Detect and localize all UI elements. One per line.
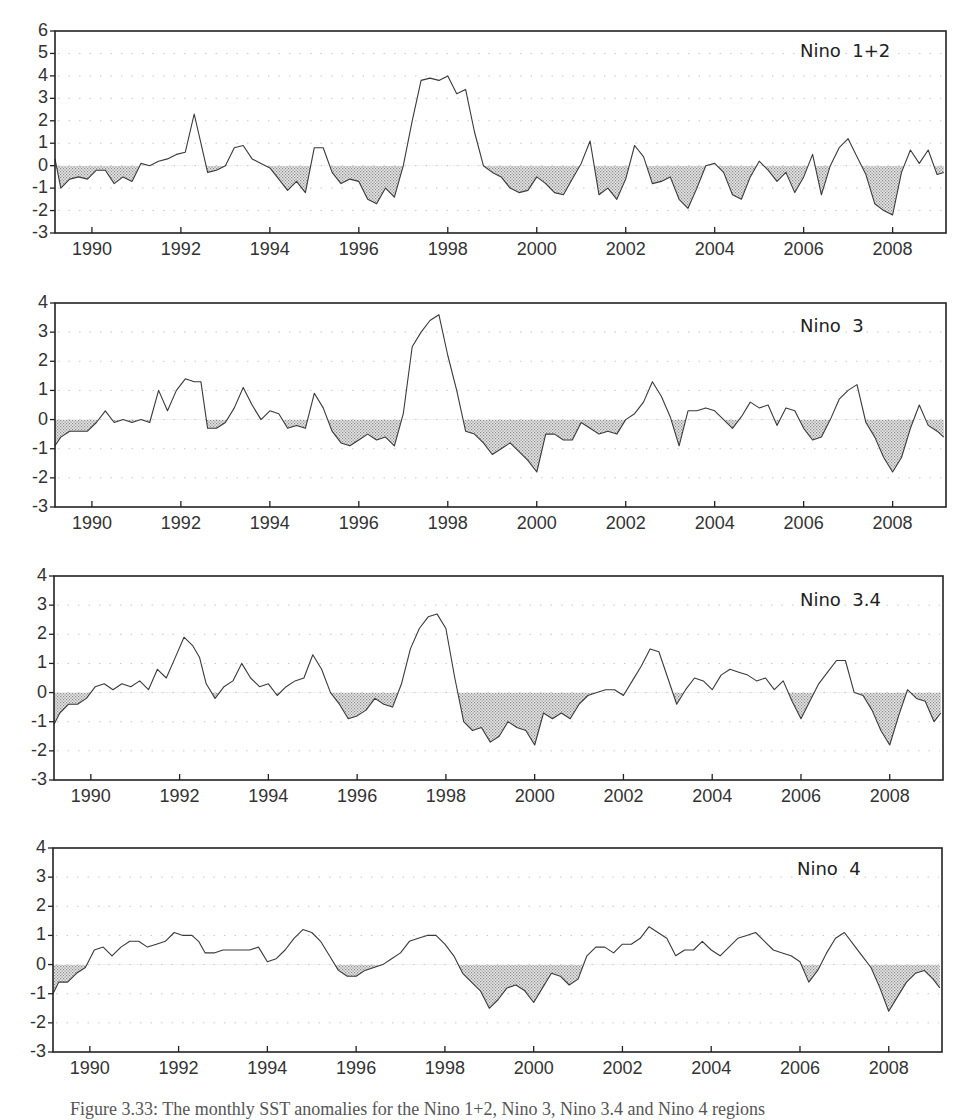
x-tick-label: 2008: [859, 1058, 919, 1079]
y-tick-label: -3: [6, 1041, 46, 1062]
panel-nino-4: Nino 4 43210-1-2-31990199219941996199820…: [0, 0, 968, 1090]
y-tick-label: -2: [6, 1012, 46, 1033]
x-tick-label: 2004: [681, 1058, 741, 1079]
y-tick-label: 1: [6, 924, 46, 945]
series-label: Nino 4: [797, 858, 861, 879]
plot-nino-4: [0, 0, 968, 1090]
x-tick-label: 1990: [60, 1058, 120, 1079]
y-tick-label: 0: [6, 954, 46, 975]
x-tick-label: 1994: [237, 1058, 297, 1079]
x-tick-label: 2002: [592, 1058, 652, 1079]
x-tick-label: 2000: [504, 1058, 564, 1079]
x-tick-label: 1998: [415, 1058, 475, 1079]
x-tick-label: 2006: [770, 1058, 830, 1079]
y-tick-label: -1: [6, 983, 46, 1004]
y-tick-label: 4: [6, 837, 46, 858]
figure-caption: Figure 3.33: The monthly SST anomalies f…: [70, 1099, 765, 1120]
y-tick-label: 3: [6, 866, 46, 887]
y-tick-label: 2: [6, 895, 46, 916]
x-tick-label: 1992: [149, 1058, 209, 1079]
x-tick-label: 1996: [326, 1058, 386, 1079]
